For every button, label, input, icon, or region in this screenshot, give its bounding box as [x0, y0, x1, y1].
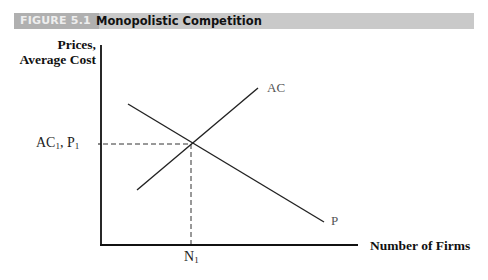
y-tick-p: , P: [60, 135, 75, 150]
p-curve: [128, 104, 324, 222]
y-tick-sub2: 1: [75, 141, 80, 151]
y-axis-label-line1: Prices,: [19, 37, 96, 52]
x-tick-sub: 1: [194, 255, 199, 265]
p-curve-label: P: [331, 213, 338, 229]
ac-curve: [137, 88, 258, 190]
y-axis-label-line2: Average Cost: [19, 52, 96, 67]
x-tick-label: N1: [184, 249, 199, 265]
y-axis-label: Prices, Average Cost: [19, 37, 96, 67]
x-tick-n: N: [184, 249, 194, 264]
y-tick-label: AC1, P1: [36, 135, 79, 151]
x-axis-label: Number of Firms: [370, 238, 470, 254]
y-tick-ac: AC: [36, 135, 55, 150]
ac-curve-label: AC: [267, 80, 285, 96]
